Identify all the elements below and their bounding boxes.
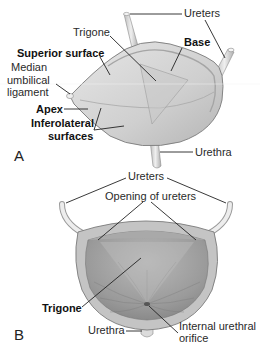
median-umbilical-ligament-tip [67, 93, 74, 98]
bladder-diagram: Ureters Trigone Base Superior surface Me… [0, 0, 260, 349]
label-apex: Apex [36, 103, 64, 115]
label-opening-of-ureters: Opening of ureters [105, 190, 197, 202]
label-superior-surface: Superior surface [17, 47, 104, 59]
label-median-2: umbilical [7, 74, 50, 86]
label-ureters-a: Ureters [184, 7, 221, 19]
label-internal-urethral-2: orifice [179, 332, 208, 344]
label-ureters-b: Ureters [128, 170, 165, 182]
label-inferolateral-2: surfaces [48, 130, 93, 142]
label-median-3: ligament [7, 86, 49, 98]
label-inferolateral-1: Inferolateral [31, 117, 94, 129]
label-median-1: Median [11, 61, 47, 73]
panel-b: Ureters Opening of ureters Trigone Ureth… [14, 170, 256, 344]
panel-a: Ureters Trigone Base Superior surface Me… [0, 7, 260, 168]
label-base: Base [184, 36, 210, 48]
label-trigone-b: Trigone [42, 302, 82, 314]
panel-letter-b: B [14, 326, 24, 343]
internal-urethral-orifice [144, 302, 150, 306]
panel-letter-a: A [14, 147, 24, 164]
label-trigone-a: Trigone [73, 26, 110, 38]
left-ureter-a [124, 14, 138, 48]
label-urethra-a: Urethra [195, 146, 233, 158]
label-urethra-b: Urethra [88, 324, 126, 336]
label-internal-urethral-1: Internal urethral [179, 320, 256, 332]
